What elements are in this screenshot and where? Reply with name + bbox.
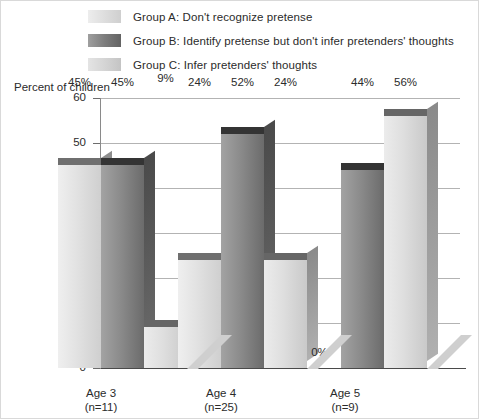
bar-face-age3-group-b xyxy=(101,165,144,368)
floor-wedge-age5 xyxy=(427,296,472,369)
y-tick-50 xyxy=(93,143,100,144)
bar-top-age4-group-a xyxy=(178,253,221,260)
x-category-age-5: Age 5 (n=9) xyxy=(300,386,390,414)
bar-top-age5-group-b xyxy=(341,163,384,170)
floor-wedge-age3 xyxy=(187,323,232,369)
legend-item-group-a: Group A: Don't recognize pretense xyxy=(88,6,468,27)
legend-swatch-group-b xyxy=(88,34,121,47)
x-category-age-3: Age 3 (n=11) xyxy=(56,386,146,414)
chart-legend: Group A: Don't recognize pretense Group … xyxy=(88,6,468,78)
legend-label-group-b: Group B: Identify pretense but don't inf… xyxy=(133,35,454,47)
value-label-age5-group-c: 56% xyxy=(378,76,433,88)
legend-item-group-b: Group B: Identify pretense but don't inf… xyxy=(88,30,468,51)
bar-top-age4-group-c xyxy=(264,253,307,260)
y-tick-60 xyxy=(93,98,100,99)
y-tick-0 xyxy=(93,368,100,369)
x-category-age-3-name: Age 3 xyxy=(56,386,146,400)
bar-age5-group-c xyxy=(384,116,427,368)
y-tick-label-50: 50 xyxy=(52,136,86,148)
plot-area: 60 50 40 30 20 10 0 45% 45% 9% 24% 52% xyxy=(100,98,460,368)
bar-top-age3-group-b xyxy=(101,158,144,165)
bar-face-age3-group-a xyxy=(58,165,101,368)
legend-swatch-group-c xyxy=(88,58,121,71)
bar-age3-group-b xyxy=(101,165,144,368)
bar-face-age5-group-c xyxy=(384,116,427,368)
legend-label-group-a: Group A: Don't recognize pretense xyxy=(133,11,312,23)
legend-label-group-c: Group C: Infer pretenders' thoughts xyxy=(133,59,317,71)
x-category-age-5-name: Age 5 xyxy=(300,386,390,400)
gridline-60 xyxy=(100,98,460,99)
value-label-age4-group-c: 24% xyxy=(258,76,313,88)
x-category-age-4-n: (n=25) xyxy=(176,400,266,414)
x-category-age-4: Age 4 (n=25) xyxy=(176,386,266,414)
x-category-age-5-n: (n=9) xyxy=(300,400,390,414)
bar-top-age5-group-c xyxy=(384,109,427,116)
bar-top-age3-group-a xyxy=(58,158,101,165)
x-category-age-4-name: Age 4 xyxy=(176,386,266,400)
y-tick-label-60: 60 xyxy=(52,91,86,103)
bar-top-age4-group-b xyxy=(221,127,264,134)
x-axis-baseline xyxy=(98,368,466,369)
bar-age3-group-a xyxy=(58,165,101,368)
floor-wedge-age4 xyxy=(307,261,352,369)
x-category-age-3-n: (n=11) xyxy=(56,400,146,414)
legend-swatch-group-a xyxy=(88,10,121,23)
